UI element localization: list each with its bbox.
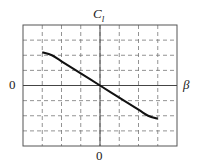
y-zero-tick: 0 bbox=[9, 77, 16, 93]
y-axis-label: Cl bbox=[93, 6, 104, 24]
x-zero-tick: 0 bbox=[96, 148, 103, 164]
x-axis-label: β bbox=[183, 77, 189, 93]
chart-plot bbox=[0, 0, 199, 167]
